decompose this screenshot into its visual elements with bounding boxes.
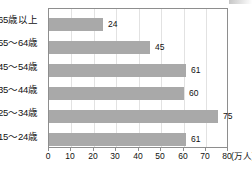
bar-chart: 65歳以上 55〜64歳 45〜54歳 35〜44歳 25〜34歳 15〜24歳…: [0, 0, 252, 170]
x-tick-label-40: 40: [133, 151, 142, 161]
x-axis-unit-label: (万人): [231, 151, 252, 161]
y-axis-category-labels: 65歳以上 55〜64歳 45〜54歳 35〜44歳 25〜34歳 15〜24歳: [0, 8, 46, 148]
bar-4: [49, 110, 218, 123]
bar-value-4: 75: [223, 112, 232, 121]
y-axis-label-0: 65歳以上: [0, 15, 44, 25]
bar-3: [49, 87, 184, 100]
bar-value-5: 61: [191, 135, 200, 144]
gridline-40: [139, 9, 140, 147]
bar-value-1: 45: [155, 43, 164, 52]
x-tick-label-70: 70: [200, 151, 209, 161]
x-tick-label-30: 30: [110, 151, 119, 161]
footnote-sliver: [8, 164, 244, 169]
bar-value-2: 61: [191, 66, 200, 75]
y-axis-label-5: 15〜24歳: [0, 132, 44, 142]
y-axis-label-1: 55〜64歳: [0, 38, 44, 48]
bar-5: [49, 133, 186, 146]
crop-artifact: [229, 0, 252, 4]
x-tick-label-50: 50: [155, 151, 164, 161]
x-tick-label-10: 10: [65, 151, 74, 161]
gridline-60: [184, 9, 185, 147]
bar-2: [49, 64, 186, 77]
x-tick-label-0: 0: [46, 151, 51, 161]
y-axis-label-4: 25〜34歳: [0, 108, 44, 118]
bar-1: [49, 41, 150, 54]
bar-value-3: 60: [189, 89, 198, 98]
x-axis-tick-labels: 0 10 20 30 40 50 60 70 80: [0, 151, 252, 163]
y-axis-label-3: 35〜44歳: [0, 85, 44, 95]
x-tick-label-60: 60: [178, 151, 187, 161]
plot-area: 24 45 61 60 75 61: [48, 8, 228, 148]
y-axis-label-2: 45〜54歳: [0, 62, 44, 72]
x-tick-label-20: 20: [88, 151, 97, 161]
gridline-70: [206, 9, 207, 147]
bar-0: [49, 18, 103, 31]
gridline-50: [161, 9, 162, 147]
bar-value-0: 24: [108, 20, 117, 29]
gridline-30: [116, 9, 117, 147]
